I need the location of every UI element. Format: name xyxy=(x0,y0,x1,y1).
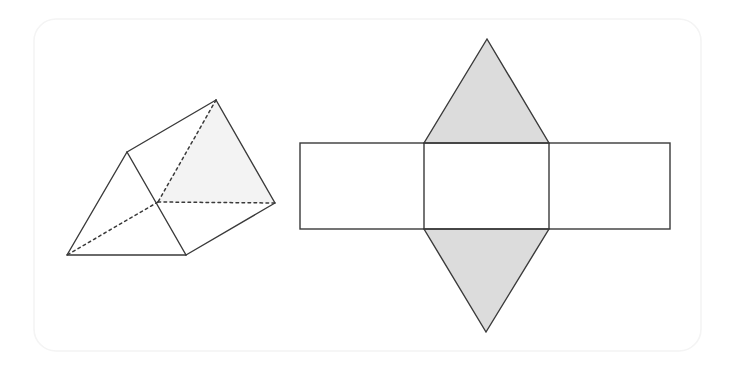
net-bottom-shaded-triangle xyxy=(424,229,549,332)
triangular-prism-net xyxy=(300,39,670,332)
edge-line xyxy=(67,152,127,255)
hidden-edge-line xyxy=(67,202,158,255)
net-fold-lines xyxy=(424,143,549,229)
edge-line xyxy=(186,203,275,255)
geometry-figure-canvas xyxy=(0,0,733,368)
figure-panel-border xyxy=(34,19,701,351)
geometry-diagram xyxy=(0,0,733,368)
prism-back-face-shading xyxy=(158,100,275,203)
triangular-prism-solid xyxy=(67,100,275,255)
net-top-shaded-triangle xyxy=(424,39,549,143)
net-rectangle-strip xyxy=(300,143,670,229)
